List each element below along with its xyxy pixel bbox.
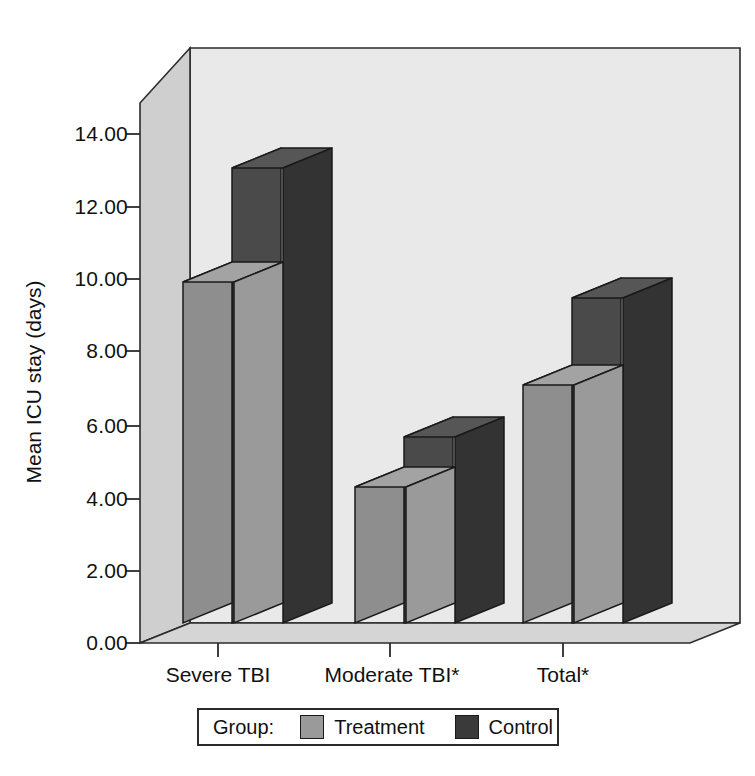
legend-item-control[interactable]: Control [455,715,553,739]
y-tick-label-10: 10.00 [74,267,128,291]
y-tick-label-8: 8.00 [86,339,128,363]
y-tick-label-0: 0.00 [86,631,128,655]
y-tick-label-12: 12.00 [74,195,128,219]
y-tick-label-14: 14.00 [74,122,128,146]
legend-title: Group: [213,716,274,739]
y-tick-label-6: 6.00 [86,414,128,438]
legend-label-control: Control [489,716,553,739]
chart-container: 14.00 12.00 10.00 8.00 6.00 4.00 2.00 0.… [0,0,755,776]
chart-legend: Group: Treatment Control [197,708,559,746]
y-axis-tick-labels: 14.00 12.00 10.00 8.00 6.00 4.00 2.00 0.… [0,0,128,776]
y-axis-ticks [126,134,140,643]
legend-swatch-control [455,715,479,739]
legend-swatch-treatment [300,715,324,739]
x-tick-label-moderate: Moderate TBI* [324,663,459,687]
y-tick-label-2: 2.00 [86,559,128,583]
x-tick-label-total: Total* [537,663,590,687]
legend-item-treatment[interactable]: Treatment [300,715,424,739]
y-tick-label-4: 4.00 [86,487,128,511]
legend-label-treatment: Treatment [334,716,424,739]
x-tick-label-severe: Severe TBI [166,663,271,687]
y-axis-title: Mean ICU stay (days) [22,252,46,512]
plot-floor [140,623,740,643]
x-axis-ticks [218,643,563,657]
